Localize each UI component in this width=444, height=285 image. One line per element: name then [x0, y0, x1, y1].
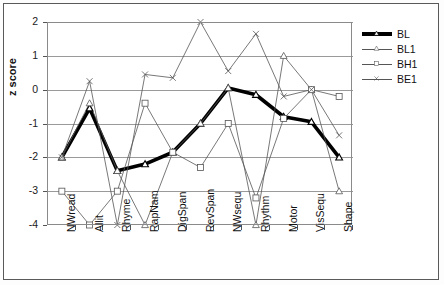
y-tick-mark: [43, 124, 47, 125]
legend-label: BL1: [397, 43, 416, 56]
y-tick-label: -1: [4, 117, 38, 129]
square-marker: [142, 100, 148, 106]
y-tick-label: -2: [4, 150, 38, 162]
plot-area: [47, 22, 352, 225]
legend-swatch-be1: [362, 73, 392, 86]
x-marker: [253, 31, 259, 37]
square-marker: [87, 222, 93, 228]
square-marker: [198, 164, 204, 170]
chart-figure: z score 210-1-2-3-4 NWreadAllitRhymeRapN…: [0, 0, 444, 285]
x-marker: [336, 132, 342, 138]
y-tick-label: -3: [4, 184, 38, 196]
y-tick-label: 1: [4, 49, 38, 61]
square-marker: [281, 115, 287, 121]
x-tick-label-nwsequ: NWsequ: [231, 192, 243, 232]
y-tick-label: 2: [4, 15, 38, 27]
y-tick-label: -4: [4, 218, 38, 230]
square-marker: [59, 188, 65, 194]
legend-marker-x: [373, 75, 380, 82]
x-marker: [281, 93, 287, 99]
y-tick-mark: [43, 157, 47, 158]
y-tick-mark: [43, 191, 47, 192]
x-tick-label-rhythm: Rhythm: [259, 196, 271, 232]
legend-marker-square: [373, 60, 380, 67]
series-line-bl: [62, 88, 339, 171]
series-layer: [48, 22, 353, 225]
x-tick-label-allit: Allit: [93, 215, 105, 232]
legend-label: BL: [397, 28, 410, 41]
x-tick-label-shape: Shape: [342, 202, 354, 232]
square-marker: [170, 149, 176, 155]
y-tick-label: 0: [4, 83, 38, 95]
legend: BLBL1BH1BE1: [362, 27, 432, 87]
x-marker: [225, 68, 231, 74]
legend-marker-triangle: [373, 30, 380, 37]
legend-swatch-bh1: [362, 58, 392, 71]
x-tick-label-revspan: RevSpan: [204, 189, 216, 232]
x-tick-label-nwread: NWread: [65, 194, 77, 232]
square-marker: [114, 188, 120, 194]
triangle-marker: [86, 100, 93, 106]
x-tick-label-digspan: DigSpan: [176, 192, 188, 232]
triangle-marker: [336, 188, 343, 194]
legend-label: BE1: [397, 73, 417, 86]
legend-item-bl1[interactable]: BL1: [362, 42, 432, 57]
x-tick-label-rhyme: Rhyme: [120, 199, 132, 232]
legend-swatch-bl1: [362, 43, 392, 56]
legend-swatch-bl: [362, 28, 392, 41]
triangle-marker: [280, 52, 287, 58]
triangle-marker: [374, 46, 379, 50]
y-tick-mark: [43, 225, 47, 226]
square-marker: [374, 61, 378, 65]
triangle-marker: [374, 31, 379, 35]
y-tick-mark: [43, 22, 47, 23]
legend-item-bh1[interactable]: BH1: [362, 57, 432, 72]
x-tick-label-vissequ: VisSequ: [314, 193, 326, 232]
y-tick-mark: [43, 90, 47, 91]
legend-label: BH1: [397, 58, 417, 71]
x-tick-label-motor: Motor: [287, 205, 299, 232]
legend-item-bl[interactable]: BL: [362, 27, 432, 42]
legend-item-be1[interactable]: BE1: [362, 72, 432, 87]
square-marker: [225, 121, 231, 127]
y-tick-mark: [43, 56, 47, 57]
x-tick-label-rapnam: RapNam: [148, 191, 160, 232]
legend-marker-triangle: [373, 45, 380, 52]
x-marker: [374, 76, 378, 80]
square-marker: [336, 93, 342, 99]
